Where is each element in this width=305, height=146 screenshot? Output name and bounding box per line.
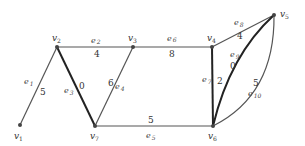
edge-label-e7: e7 (202, 75, 212, 85)
edge-weight-e8: 4 (237, 31, 243, 41)
edge-weight-e2: 4 (94, 49, 100, 59)
edge-label-e2: e2 (91, 36, 101, 45)
vertex-v2 (55, 45, 59, 49)
edge-weight-e9: 0 (230, 61, 236, 71)
vertex-label-v1: v1 (14, 131, 23, 142)
vertex-v4 (210, 45, 214, 49)
vertex-label-v4: v4 (207, 33, 216, 44)
edge-weight-e7: 2 (217, 76, 223, 86)
edge-label-e9: e9 (230, 50, 240, 60)
graph-diagram: v1 v2 v3 v4 v5 v6 v7 e1 5 e2 4 e3 0 6 e4… (0, 0, 305, 146)
edge-label-e5: e5 (146, 131, 156, 141)
vertex-v3 (131, 45, 135, 49)
vertex-label-v2: v2 (52, 33, 61, 44)
edge-label-e8: e8 (234, 18, 244, 28)
edge-label-e4: e4 (115, 82, 125, 92)
vertex-label-v6: v6 (208, 131, 217, 142)
edge-e10 (213, 15, 274, 126)
vertex-label-v5: v5 (280, 9, 289, 20)
vertex-v6 (211, 124, 215, 128)
vertex-v7 (93, 124, 97, 128)
vertex-v5 (272, 13, 276, 17)
vertex-v1 (18, 123, 22, 127)
edge-e3 (57, 47, 95, 126)
edge-e8 (212, 15, 274, 47)
edge-label-e6: e6 (167, 34, 177, 43)
vertex-label-v3: v3 (128, 33, 137, 44)
edge-e7 (212, 47, 213, 126)
edge-weight-e4: 6 (108, 78, 114, 88)
edge-weight-e6: 8 (169, 49, 175, 59)
edge-e1 (20, 47, 57, 125)
edge-weight-e5: 5 (148, 115, 154, 125)
edge-e4 (95, 47, 133, 126)
vertex-label-v7: v7 (90, 131, 99, 142)
edge-label-e3: e3 (64, 86, 74, 96)
edge-weight-e3: 0 (79, 81, 85, 91)
edge-weight-e1: 5 (40, 87, 46, 97)
edge-weight-e10: 5 (253, 78, 259, 88)
edge-label-e1: e1 (24, 77, 34, 87)
